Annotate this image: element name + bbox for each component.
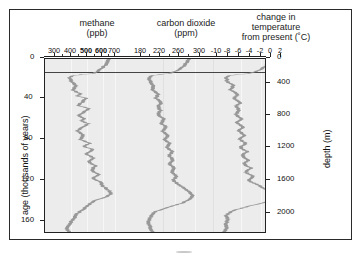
tick-mark — [159, 53, 160, 57]
tick-mark — [169, 54, 170, 56]
co2-axis-title: carbon dioxide (ppm) — [140, 18, 232, 38]
tick-mark — [266, 114, 270, 115]
tick-mark — [266, 57, 270, 58]
temp-title-line3: from present (˚C) — [222, 32, 330, 42]
tick-mark — [238, 53, 239, 57]
tick-mark — [40, 97, 44, 98]
tick-mark — [40, 179, 44, 180]
data-curves — [45, 59, 266, 233]
plot-area — [44, 58, 266, 233]
tick-mark — [266, 212, 270, 213]
tick-mark — [149, 54, 150, 56]
depth-tick-400: 400 — [277, 77, 290, 86]
tick-mark — [86, 53, 87, 57]
tick-mark — [94, 54, 95, 56]
temp-title-line1: change in — [222, 12, 330, 22]
co2-title-line2: (ppm) — [140, 28, 232, 38]
methane-title-line1: methane — [52, 18, 142, 28]
temperature-axis-title: change in temperature from present (˚C) — [222, 12, 330, 42]
tick-mark — [266, 179, 270, 180]
depth-tick-1200: 1200 — [277, 141, 294, 150]
co2-title-line1: carbon dioxide — [140, 18, 232, 28]
tick-mark — [260, 53, 261, 57]
tick-mark — [178, 53, 179, 57]
temp-title-line2: temperature — [222, 22, 330, 32]
tick-mark — [70, 53, 71, 57]
tick-mark — [227, 53, 228, 57]
tick-mark — [266, 146, 270, 147]
tick-mark — [266, 82, 270, 83]
tick-mark — [114, 53, 115, 57]
age-tick-80: 80 — [24, 133, 33, 142]
scan-artifact — [176, 251, 192, 253]
depth-tick-2000: 2000 — [277, 207, 294, 216]
age-tick-120: 120 — [21, 174, 34, 183]
tick-mark — [270, 53, 271, 57]
tick-mark — [249, 53, 250, 57]
tick-mark — [62, 54, 63, 56]
tick-mark — [40, 220, 44, 221]
methane-axis-title: methane (ppb) — [52, 18, 142, 38]
tick-mark — [140, 53, 141, 57]
depth-tick-800: 800 — [277, 109, 290, 118]
age-tick-40: 40 — [24, 92, 33, 101]
tick-mark — [40, 138, 44, 139]
tick-mark — [216, 53, 217, 57]
figure-container: methane (ppb) carbon dioxide (ppm) chang… — [0, 0, 362, 258]
depth-tick-0: 0 — [277, 52, 281, 61]
tick-mark — [188, 54, 189, 56]
tick-mark — [199, 53, 200, 57]
tick-mark — [108, 54, 109, 56]
age-tick-160: 160 — [21, 215, 34, 224]
tick-mark — [101, 53, 102, 57]
depth-tick-1600: 1600 — [277, 174, 294, 183]
tick-mark — [54, 53, 55, 57]
left-axis-title: age (thousands of years) — [20, 115, 30, 215]
methane-title-line2: (ppb) — [52, 28, 142, 38]
tick-mark — [40, 57, 44, 58]
age-tick-0: 0 — [30, 52, 34, 61]
tick-mark — [78, 54, 79, 56]
right-axis-title: depth (m) — [322, 129, 332, 168]
